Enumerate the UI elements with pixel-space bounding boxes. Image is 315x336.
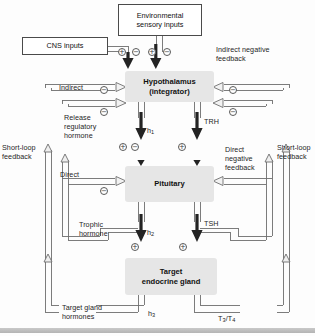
indirect-negative-feedback-label: Indirect negative feedback xyxy=(216,45,314,63)
h1-subscript: 1 xyxy=(151,130,154,136)
symbol-minus-pituitary-left: − xyxy=(100,187,108,195)
direct-label: Direct xyxy=(60,170,104,179)
symbol-plus-cns: + xyxy=(118,48,126,56)
target-gland-hormones-label: Target gland hormones xyxy=(62,303,124,321)
h3-subscript: 3 xyxy=(152,313,155,319)
symbol-minus-hypothalamus-right-upper: − xyxy=(229,86,237,94)
short-loop-feedback-left-label: Short-loop feedback xyxy=(2,143,46,161)
symbol-minus-h1: − xyxy=(131,143,139,151)
indirect-label: Indirect xyxy=(59,83,105,92)
release-regulatory-hormone-label: Release regulatory hormone xyxy=(64,113,116,141)
symbol-minus-hypothalamus-right-lower: − xyxy=(229,108,237,116)
hormone-h3-label: h3 xyxy=(148,300,155,321)
symbol-minus-environmental: − xyxy=(163,48,171,56)
hormone-trh-label: TRH xyxy=(204,117,219,126)
environmental-input-label: Environmental sensory inputs xyxy=(118,4,202,36)
symbol-plus-h1: + xyxy=(119,143,127,151)
page-footer-rule xyxy=(0,328,315,333)
h2-subscript: 2 xyxy=(151,232,154,238)
pituitary-label: Pituitary xyxy=(125,166,214,202)
hypothalamus-label: Hypothalamus (integrator) xyxy=(125,71,214,102)
short-loop-feedback-right-label: Short-loop feedback xyxy=(277,143,315,161)
hormone-tsh-label: TSH xyxy=(204,219,219,228)
trophic-hormone-label: Trophic hormone xyxy=(79,220,131,238)
hormone-t3-t4-label: T3/T4 xyxy=(218,305,235,326)
direct-negative-feedback-label: Direct negative feedback xyxy=(225,145,269,173)
symbol-minus-cns: − xyxy=(132,48,140,56)
cns-input-label: CNS inputs xyxy=(22,37,108,55)
symbol-plus-h2: + xyxy=(131,243,139,251)
target-endocrine-gland-label: Target endocrine gland xyxy=(125,258,217,295)
endocrine-feedback-diagram: Environmental sensory inputs CNS inputs … xyxy=(0,0,315,336)
symbol-plus-environmental: + xyxy=(148,48,156,56)
hormone-h1-label: h1 xyxy=(147,117,154,138)
symbol-plus-trh: + xyxy=(178,143,186,151)
t4-subscript: 4 xyxy=(232,318,235,324)
hormone-h2-label: h2 xyxy=(147,219,154,240)
symbol-plus-tsh: + xyxy=(179,243,187,251)
